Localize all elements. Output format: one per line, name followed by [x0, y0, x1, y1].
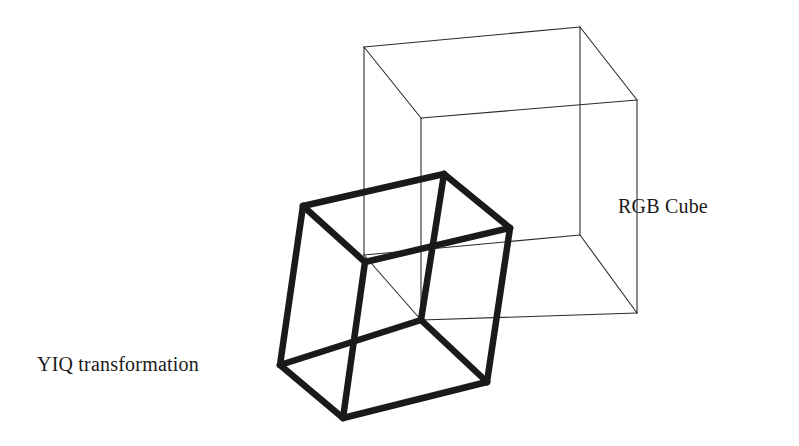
figure-canvas: RGB Cube YIQ transformation	[0, 0, 799, 446]
rgb-cube-edge	[580, 235, 637, 313]
rgb-cube-edge	[364, 255, 421, 320]
yiq-cube-edge	[303, 206, 365, 262]
cube-diagram	[0, 0, 799, 446]
yiq-cube-edge	[343, 382, 487, 418]
yiq-cube-edge	[444, 174, 510, 228]
rgb-cube-edge	[364, 27, 580, 47]
rgb-cube-label: RGB Cube	[618, 196, 708, 216]
rgb-cube-edge	[580, 27, 637, 100]
yiq-cube-edge	[303, 174, 444, 206]
yiq-cube-edge	[280, 206, 303, 365]
rgb-cube-edge	[421, 100, 637, 118]
yiq-cube-wireframe	[280, 174, 510, 418]
yiq-cube-edge	[487, 228, 510, 382]
yiq-cube-edge	[421, 320, 487, 382]
yiq-transformation-label: YIQ transformation	[37, 354, 199, 374]
rgb-cube-edge	[421, 313, 637, 320]
yiq-cube-edge	[280, 365, 343, 418]
rgb-cube-edge	[364, 47, 421, 118]
